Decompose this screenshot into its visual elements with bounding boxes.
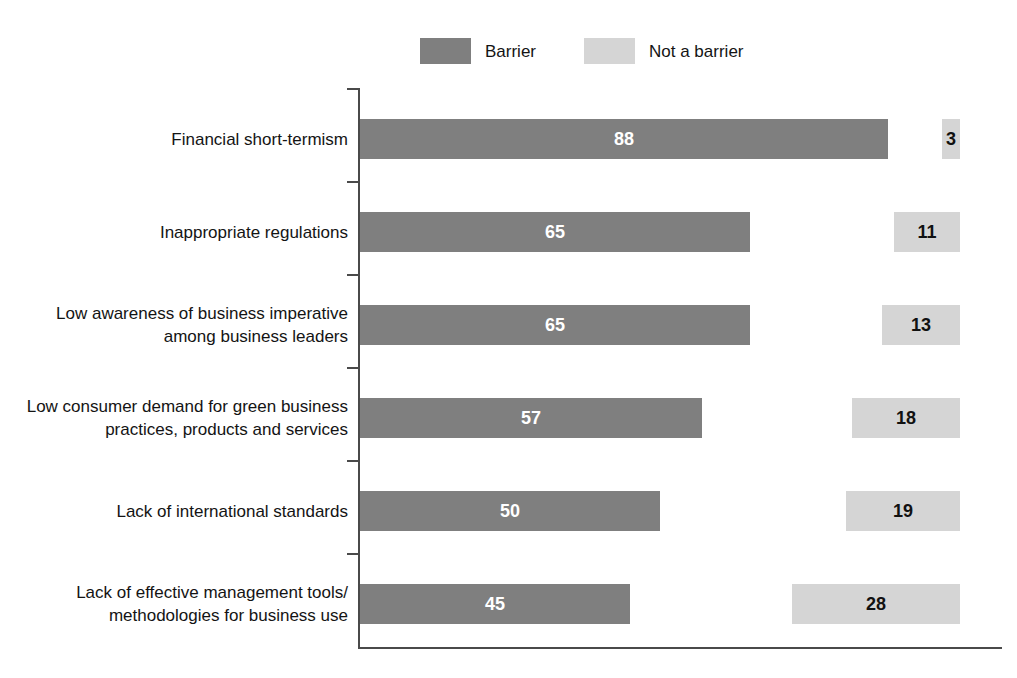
category-label-line: Inappropriate regulations bbox=[160, 221, 348, 244]
bar-value-barrier: 65 bbox=[545, 315, 565, 336]
category-label: Inappropriate regulations bbox=[0, 186, 348, 278]
bar-value-barrier: 57 bbox=[521, 408, 541, 429]
bar-value-not-a-barrier: 28 bbox=[866, 594, 886, 615]
legend-label-not-a-barrier: Not a barrier bbox=[649, 43, 743, 60]
category-label-line: practices, products and services bbox=[105, 418, 348, 441]
bar-group: 57 18 bbox=[360, 372, 1017, 464]
legend-item-not-a-barrier[interactable]: Not a barrier bbox=[584, 38, 743, 64]
chart-row: Lack of international standards 50 19 bbox=[0, 465, 1017, 557]
bar-value-not-a-barrier: 13 bbox=[911, 315, 931, 336]
bar-value-not-a-barrier: 18 bbox=[896, 408, 916, 429]
legend-item-barrier[interactable]: Barrier bbox=[420, 38, 536, 64]
category-label-line: Financial short-termism bbox=[171, 128, 348, 151]
legend-swatch-not-a-barrier-icon bbox=[584, 38, 635, 64]
category-label-line: among business leaders bbox=[164, 325, 348, 348]
chart-row: Low consumer demand for green business p… bbox=[0, 372, 1017, 464]
horizontal-bar-chart: Barrier Not a barrier Financial short-te… bbox=[0, 0, 1017, 678]
bar-group: 45 28 bbox=[360, 558, 1017, 650]
bar-not-a-barrier[interactable]: 18 bbox=[852, 398, 960, 438]
legend-label-barrier: Barrier bbox=[485, 43, 536, 60]
bar-barrier[interactable]: 50 bbox=[360, 491, 660, 531]
bar-value-barrier: 50 bbox=[500, 501, 520, 522]
chart-row: Financial short-termism 88 3 bbox=[0, 93, 1017, 185]
bar-group: 50 19 bbox=[360, 465, 1017, 557]
chart-row: Lack of effective management tools/ meth… bbox=[0, 558, 1017, 650]
category-label-line: Lack of international standards bbox=[116, 500, 348, 523]
bar-barrier[interactable]: 88 bbox=[360, 119, 888, 159]
bar-not-a-barrier[interactable]: 3 bbox=[942, 119, 960, 159]
bar-group: 65 11 bbox=[360, 186, 1017, 278]
category-label-line: Low awareness of business imperative bbox=[56, 302, 348, 325]
category-label: Lack of effective management tools/ meth… bbox=[0, 558, 348, 650]
chart-row: Low awareness of business imperative amo… bbox=[0, 279, 1017, 371]
category-label-line: Low consumer demand for green business bbox=[27, 395, 348, 418]
bar-value-barrier: 88 bbox=[614, 129, 634, 150]
bar-group: 88 3 bbox=[360, 93, 1017, 185]
bar-value-not-a-barrier: 11 bbox=[917, 222, 936, 243]
bar-value-not-a-barrier: 19 bbox=[893, 501, 913, 522]
bar-barrier[interactable]: 45 bbox=[360, 584, 630, 624]
bar-group: 65 13 bbox=[360, 279, 1017, 371]
category-label: Low consumer demand for green business p… bbox=[0, 372, 348, 464]
legend-swatch-barrier-icon bbox=[420, 38, 471, 64]
bar-value-not-a-barrier: 3 bbox=[946, 129, 956, 150]
bar-barrier[interactable]: 65 bbox=[360, 305, 750, 345]
category-label: Financial short-termism bbox=[0, 93, 348, 185]
category-label: Low awareness of business imperative amo… bbox=[0, 279, 348, 371]
category-label-line: methodologies for business use bbox=[109, 604, 348, 627]
bar-not-a-barrier[interactable]: 13 bbox=[882, 305, 960, 345]
bar-barrier[interactable]: 57 bbox=[360, 398, 702, 438]
bar-not-a-barrier[interactable]: 11 bbox=[894, 212, 960, 252]
bar-not-a-barrier[interactable]: 19 bbox=[846, 491, 960, 531]
chart-legend: Barrier Not a barrier bbox=[420, 38, 744, 64]
category-label: Lack of international standards bbox=[0, 465, 348, 557]
bar-value-barrier: 45 bbox=[485, 594, 505, 615]
category-label-line: Lack of effective management tools/ bbox=[76, 581, 348, 604]
bar-barrier[interactable]: 65 bbox=[360, 212, 750, 252]
y-axis-tick bbox=[347, 88, 358, 90]
bar-value-barrier: 65 bbox=[545, 222, 565, 243]
chart-row: Inappropriate regulations 65 11 bbox=[0, 186, 1017, 278]
bar-not-a-barrier[interactable]: 28 bbox=[792, 584, 960, 624]
